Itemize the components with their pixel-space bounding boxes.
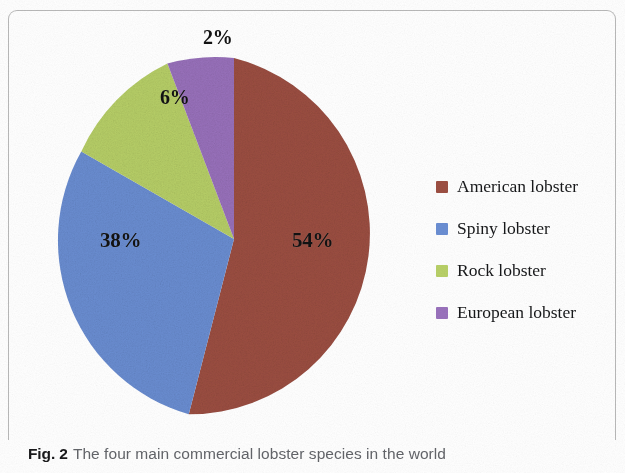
slice-label-american-lobster: 54%	[292, 228, 333, 253]
legend-item-spiny-lobster: Spiny lobster	[436, 208, 616, 250]
slice-label-spiny-lobster: 38%	[100, 228, 141, 253]
figure-caption-text: The four main commercial lobster species…	[73, 445, 446, 462]
legend-label: European lobster	[457, 304, 576, 322]
slice-label-rock-lobster: 6%	[160, 86, 190, 109]
legend-swatch-icon	[436, 223, 448, 235]
legend-swatch-icon	[436, 181, 448, 193]
legend-item-rock-lobster: Rock lobster	[436, 250, 616, 292]
chart-legend: American lobster Spiny lobster Rock lobs…	[436, 166, 616, 334]
legend-swatch-icon	[436, 307, 448, 319]
pie-chart: 54% 38% 6% 2% American lobster Spiny lob…	[0, 0, 625, 440]
legend-item-american-lobster: American lobster	[436, 166, 616, 208]
figure-caption-prefix: Fig. 2	[28, 445, 68, 462]
legend-swatch-icon	[436, 265, 448, 277]
legend-item-european-lobster: European lobster	[436, 292, 616, 334]
legend-label: Rock lobster	[457, 262, 546, 280]
legend-label: American lobster	[457, 178, 578, 196]
legend-label: Spiny lobster	[457, 220, 550, 238]
slice-label-european-lobster: 2%	[203, 26, 233, 49]
figure-caption: Fig. 2The four main commercial lobster s…	[28, 446, 446, 462]
